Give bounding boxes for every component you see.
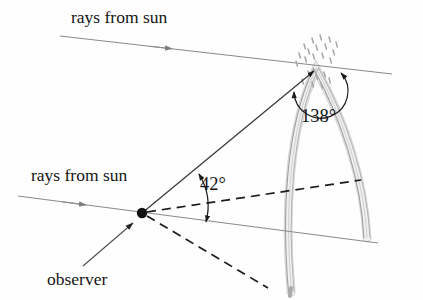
label-angle-42: 42° [200, 175, 226, 194]
label-rays-from-sun-top: rays from sun [71, 9, 167, 27]
rainbow-arc [286, 68, 370, 296]
rainbow-geometry-diagram: rays from sun rays from sun observer 42°… [0, 0, 423, 300]
dashed-reference-lines [147, 180, 361, 288]
sun-rays-group [18, 36, 392, 243]
label-angle-138: 138° [301, 107, 336, 126]
sun-ray-upper-arrowhead [150, 46, 172, 49]
diagram-canvas [0, 0, 423, 300]
sun-ray-lower-arrowhead [62, 202, 86, 205]
label-rays-from-sun-left: rays from sun [31, 167, 127, 185]
sun-ray-upper-line [60, 36, 392, 74]
rainbow-leg-tail [290, 288, 291, 296]
label-observer: observer [47, 271, 107, 289]
antisolar-dashed-upper [147, 180, 361, 212]
observer-point [137, 208, 147, 218]
observer-leader-arrow [83, 223, 133, 266]
rainbow-band-inner-edge [286, 69, 364, 293]
